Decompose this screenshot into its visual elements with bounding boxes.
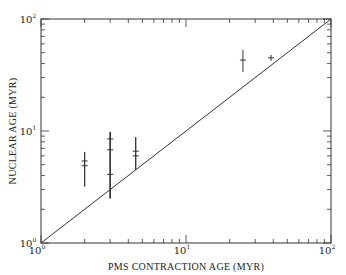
y-axis-title: NUCLEAR AGE (MYR) bbox=[7, 78, 19, 185]
x-tick-labels: 100101102 bbox=[29, 243, 336, 256]
data-point bbox=[133, 137, 139, 170]
y-tick-label: 102 bbox=[20, 12, 37, 25]
data-point bbox=[82, 152, 88, 186]
y-tick-labels: 100101102 bbox=[20, 12, 37, 249]
chart: 100101102 100101102 PMS CONTRACTION AGE … bbox=[0, 0, 346, 275]
data-point bbox=[268, 55, 274, 61]
x-axis-title: PMS CONTRACTION AGE (MYR) bbox=[108, 261, 264, 273]
data-points bbox=[82, 50, 274, 199]
x-tick-label: 101 bbox=[174, 243, 191, 256]
x-tick-label: 102 bbox=[319, 243, 336, 256]
one-to-one-line bbox=[41, 19, 331, 243]
y-tick-label: 101 bbox=[20, 124, 37, 137]
data-point bbox=[240, 50, 246, 72]
